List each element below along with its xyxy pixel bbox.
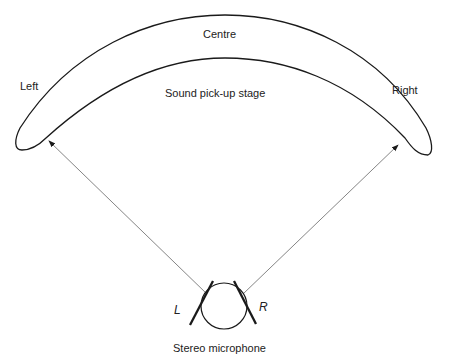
- right-pickup-arrow: [243, 145, 398, 294]
- left-capsule: [190, 281, 213, 325]
- right-capsule: [234, 281, 256, 324]
- right-label: Right: [392, 84, 418, 96]
- stereo-pickup-diagram: [0, 0, 450, 362]
- microphone-caption: Stereo microphone: [173, 342, 266, 354]
- left-label: Left: [20, 80, 38, 92]
- right-capsule-label: R: [259, 300, 268, 314]
- stage-label: Sound pick-up stage: [165, 87, 265, 99]
- left-pickup-arrow: [49, 141, 207, 294]
- centre-label: Centre: [203, 28, 236, 40]
- left-capsule-label: L: [174, 303, 181, 317]
